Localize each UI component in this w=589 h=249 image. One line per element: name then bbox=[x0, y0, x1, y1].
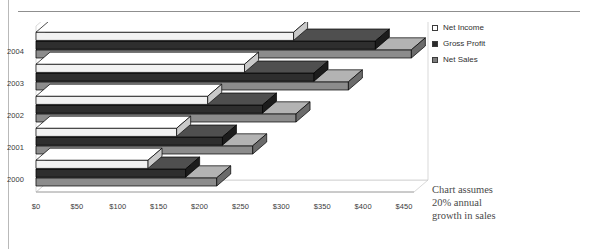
y-axis-label-2001: 2001 bbox=[0, 143, 24, 152]
annotation-line-1: Chart assumes bbox=[432, 183, 572, 196]
x-axis-tick-usd-150: $150 bbox=[142, 202, 176, 211]
legend-item-net-sales[interactable]: Net Sales bbox=[432, 53, 552, 67]
x-axis-tick-usd-250: $250 bbox=[223, 202, 257, 211]
page-top-rule bbox=[18, 11, 580, 12]
y-axis-label-2004: 2004 bbox=[0, 47, 24, 56]
x-axis-tick-usd-300: $300 bbox=[264, 202, 298, 211]
chart-annotation: Chart assumes 20% annual growth in sales bbox=[432, 183, 572, 222]
annotation-line-2: 20% annual bbox=[432, 196, 572, 209]
x-axis-tick-usd-200: $200 bbox=[183, 202, 217, 211]
x-axis-tick-usd-350: $350 bbox=[305, 202, 339, 211]
chart-legend: Net Income Gross Profit Net Sales bbox=[432, 21, 552, 69]
legend-label-gross-profit: Gross Profit bbox=[443, 40, 485, 48]
x-axis-tick-usd-50: $50 bbox=[60, 202, 94, 211]
legend-label-net-sales: Net Sales bbox=[443, 56, 478, 64]
plot-area bbox=[30, 22, 430, 212]
legend-label-net-income: Net Income bbox=[443, 24, 484, 32]
legend-swatch-net-income bbox=[432, 25, 438, 31]
y-axis-label-2000: 2000 bbox=[0, 175, 24, 184]
y-axis-label-2002: 2002 bbox=[0, 111, 24, 120]
bar-chart-svg bbox=[30, 22, 430, 212]
x-axis-tick-usd-400: $400 bbox=[346, 202, 380, 211]
x-axis-tick-usd-0: $0 bbox=[19, 202, 53, 211]
legend-item-gross-profit[interactable]: Gross Profit bbox=[432, 37, 552, 51]
annotation-line-3: growth in sales bbox=[432, 209, 572, 222]
x-axis-tick-usd-100: $100 bbox=[101, 202, 135, 211]
legend-swatch-gross-profit bbox=[432, 41, 438, 47]
chart-page: 20002001200220032004 $0$50$100$150$200$2… bbox=[0, 0, 589, 249]
x-axis-tick-usd-450: $450 bbox=[387, 202, 421, 211]
legend-swatch-net-sales bbox=[432, 57, 438, 63]
y-axis-label-2003: 2003 bbox=[0, 79, 24, 88]
legend-item-net-income[interactable]: Net Income bbox=[432, 21, 552, 35]
